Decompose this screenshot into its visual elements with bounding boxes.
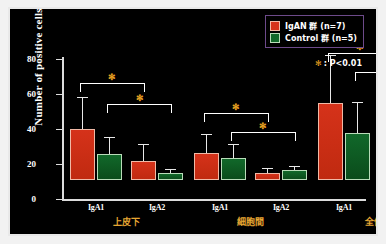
- group-label-subepithelial: 上皮下: [91, 215, 161, 228]
- error-bar-g1-iga1-control: [109, 138, 110, 154]
- bar-g3-iga1-igan: [318, 103, 343, 180]
- y-tick-label-0: 0: [12, 194, 36, 204]
- legend-swatch-igan: [270, 21, 280, 31]
- bar-g3-iga1-control: [345, 133, 370, 180]
- error-cap-g2-iga1-igan: [201, 134, 212, 135]
- bar-g2-iga1-control: [221, 158, 246, 180]
- legend-swatch-control: [270, 33, 280, 43]
- error-cap-g2-iga1-control: [228, 144, 239, 145]
- chart-canvas: 80 60 40 20 0 Number of positive cells: [8, 7, 378, 236]
- p-value-text: : P<0.01: [324, 59, 362, 68]
- significance-star-g1-control: ✻: [136, 94, 144, 103]
- bar-g2-iga2-control: [282, 170, 307, 181]
- p-value-note: ✻: P<0.01: [315, 59, 362, 68]
- y-tick-60: [56, 94, 63, 95]
- bar-g2-iga2-igan: [255, 173, 280, 180]
- bar-g2-iga1-igan: [194, 153, 219, 180]
- group-label-total: 全体: [339, 215, 378, 228]
- error-cap-g2-iga2-control: [289, 166, 300, 167]
- legend: IgAN 群 (n=7) Control 群 (n=5): [265, 15, 364, 48]
- legend-item-igan: IgAN 群 (n=7): [270, 20, 357, 31]
- error-cap-g2-iga2-igan: [262, 168, 273, 169]
- error-bar-g2-iga1-igan: [206, 135, 207, 153]
- y-tick-0: [56, 199, 63, 200]
- x-label-g2-iga1: IgA1: [200, 203, 240, 212]
- group-label-intercellular: 細胞間: [215, 215, 285, 228]
- significance-bracket-g1-igan: [80, 83, 145, 92]
- error-cap-g1-iga1-control: [104, 137, 115, 138]
- y-tick-label-20: 20: [12, 159, 36, 169]
- bar-g1-iga2-control: [158, 173, 183, 180]
- significance-bracket-g2-control: [231, 132, 296, 141]
- x-label-g1-iga1: IgA1: [76, 203, 116, 212]
- x-label-g3-iga1: IgA1: [324, 203, 364, 212]
- legend-label-igan: IgAN 群 (n=7): [285, 20, 345, 31]
- chart-figure: 80 60 40 20 0 Number of positive cells: [0, 0, 386, 244]
- significance-bracket-g3-control: [355, 72, 378, 81]
- x-axis-line: [62, 199, 366, 201]
- y-tick-40: [56, 129, 63, 130]
- error-bar-g2-iga1-control: [233, 145, 234, 158]
- error-bar-g1-iga1-igan: [82, 98, 83, 130]
- legend-label-control: Control 群 (n=5): [285, 32, 357, 43]
- significance-bracket-g1-control: [107, 104, 172, 113]
- significance-star-g1-igan: ✻: [108, 73, 116, 82]
- error-cap-g1-iga2-igan: [138, 144, 149, 145]
- y-tick-80: [56, 59, 63, 60]
- significance-star-g2-igan: ✻: [232, 103, 240, 112]
- significance-star-g2-control: ✻: [259, 122, 267, 131]
- error-cap-g1-iga2-control: [165, 169, 176, 170]
- y-axis-title: Number of positive cells: [32, 7, 44, 137]
- error-bar-g1-iga2-igan: [143, 145, 144, 161]
- y-tick-20: [56, 164, 63, 165]
- x-label-g1-iga2: IgA2: [137, 203, 177, 212]
- x-label-g2-iga2: IgA2: [261, 203, 301, 212]
- bar-g1-iga1-control: [97, 154, 122, 180]
- error-bar-g3-iga1-control: [357, 103, 358, 133]
- error-cap-g3-iga1-control: [352, 102, 363, 103]
- bar-g1-iga2-igan: [131, 161, 156, 180]
- p-value-star-icon: ✻: [315, 59, 322, 68]
- legend-item-control: Control 群 (n=5): [270, 32, 357, 43]
- bar-g1-iga1-igan: [70, 129, 95, 180]
- error-cap-g1-iga1-igan: [77, 97, 88, 98]
